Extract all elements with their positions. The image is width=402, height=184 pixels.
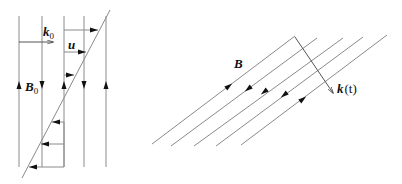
arrow-up-icon: [104, 81, 109, 89]
arrow-right-icon: [78, 50, 86, 55]
arrow-up-icon: [62, 81, 67, 89]
field-line: [241, 35, 387, 145]
k-t-arrow: [295, 37, 333, 93]
field-line: [152, 36, 295, 144]
arrow-right-icon: [66, 73, 74, 78]
sheared-field-arrowheads: [224, 82, 307, 104]
diagram-canvas: k0 u B0 B k(t): [0, 0, 402, 184]
field-line: [171, 38, 317, 146]
arrow-down-icon: [40, 81, 45, 89]
left-figure: k0 u B0: [17, 10, 111, 178]
right-figure: B k(t): [152, 35, 387, 146]
arrow-up-icon: [17, 81, 22, 89]
b0-label: B0: [24, 79, 39, 96]
arrow-down-icon: [82, 81, 87, 89]
arrow-right-icon: [90, 28, 98, 33]
u-label: u: [68, 37, 75, 52]
arrow-left-icon: [29, 165, 37, 170]
field-line: [194, 38, 343, 146]
arrow-left-icon: [52, 120, 60, 125]
k0-label: k0: [43, 24, 55, 41]
b-label: B: [233, 56, 243, 71]
k-t-label: k(t): [337, 81, 357, 96]
